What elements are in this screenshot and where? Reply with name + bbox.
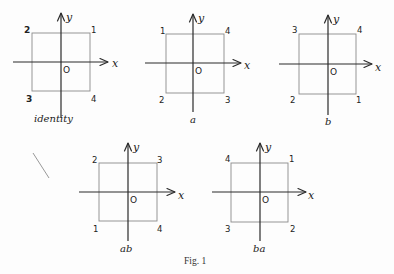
corner-top-right: 3 (157, 155, 162, 165)
x-axis-label: x (308, 189, 315, 202)
x-axis-label: x (244, 59, 251, 72)
corner-top-left: 2 (24, 25, 30, 35)
panel-ab: x y O 2 3 1 4 ab (79, 141, 185, 254)
panel-identity: x y O 2 1 3 4 identity (13, 11, 119, 124)
origin-label: O (63, 65, 70, 75)
x-axis-label: x (112, 57, 119, 70)
panel-caption: ab (120, 243, 132, 254)
origin-label: O (195, 66, 202, 76)
y-axis-label: y (197, 12, 205, 25)
corner-bottom-left: 1 (93, 224, 98, 234)
y-axis-label: y (264, 141, 272, 154)
panel-caption: b (325, 116, 331, 127)
y-axis-label: y (65, 11, 73, 24)
corner-bottom-left: 2 (290, 95, 295, 105)
y-axis-label: y (132, 141, 140, 154)
corner-bottom-left: 3 (26, 94, 32, 104)
corner-bottom-right: 2 (290, 224, 295, 234)
panel-ba: x y O 4 1 3 2 ba (212, 141, 315, 254)
corner-top-right: 4 (357, 25, 362, 35)
corner-top-left: 1 (160, 26, 165, 36)
figure-canvas: x y O 2 1 3 4 identity x y O 1 4 2 3 a x… (0, 0, 394, 274)
corner-top-right: 1 (289, 154, 294, 164)
corner-top-right: 1 (91, 25, 96, 35)
corner-bottom-right: 1 (356, 95, 361, 105)
panel-caption: ba (253, 243, 265, 254)
panel-caption: identity (34, 113, 73, 124)
panel-caption: a (190, 114, 196, 125)
corner-top-left: 2 (92, 155, 97, 165)
scan-artifact (33, 153, 49, 178)
corner-bottom-left: 3 (225, 224, 230, 234)
corner-bottom-right: 4 (91, 94, 96, 104)
origin-label: O (330, 67, 337, 77)
corner-bottom-right: 3 (225, 95, 230, 105)
corner-top-left: 3 (292, 25, 297, 35)
corner-bottom-right: 4 (157, 224, 162, 234)
origin-label: O (130, 195, 137, 205)
corner-top-right: 4 (225, 26, 230, 36)
origin-label: O (262, 195, 269, 205)
corner-bottom-left: 2 (159, 95, 164, 105)
x-axis-label: x (375, 61, 382, 74)
figure-caption: Fig. 1 (184, 256, 206, 266)
panel-b: x y O 3 4 2 1 b (279, 13, 382, 127)
y-axis-label: y (332, 13, 340, 26)
corner-top-left: 4 (225, 154, 230, 164)
panel-a: x y O 1 4 2 3 a (145, 12, 251, 125)
x-axis-label: x (178, 189, 185, 202)
